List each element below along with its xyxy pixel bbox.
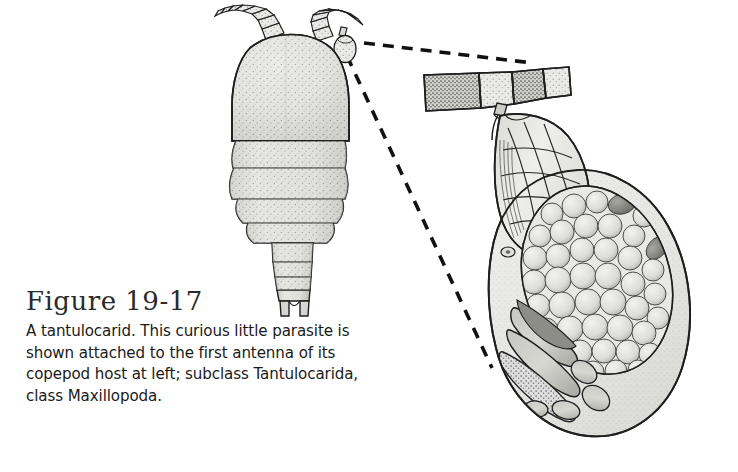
caption-line-1: A tantulocarid. This curious little para… [26,321,366,343]
host-antenna-right [311,9,363,41]
caption-block: Figure 19-17 A tantulocarid. This curiou… [26,288,366,407]
leader-line-upper [364,43,533,63]
figure-panel: Figure 19-17 A tantulocarid. This curiou… [0,0,738,472]
host-antenna-segment [424,67,571,118]
host-antenna-left [215,5,284,40]
caption-line-3: copepod host at left; subclass Tantuloca… [26,364,366,386]
host-urosome-stipple [272,243,313,290]
sac-pore [501,247,515,257]
caption-line-4: class Maxillopoda. [26,386,366,408]
caption-line-2: shown attached to the first antenna of i… [26,343,366,365]
copepod-host [215,5,363,316]
figure-caption: A tantulocarid. This curious little para… [26,321,366,407]
host-somite-stipple [230,141,348,243]
figure-title: Figure 19-17 [26,288,366,314]
tantulocarid-magnified [480,114,700,445]
